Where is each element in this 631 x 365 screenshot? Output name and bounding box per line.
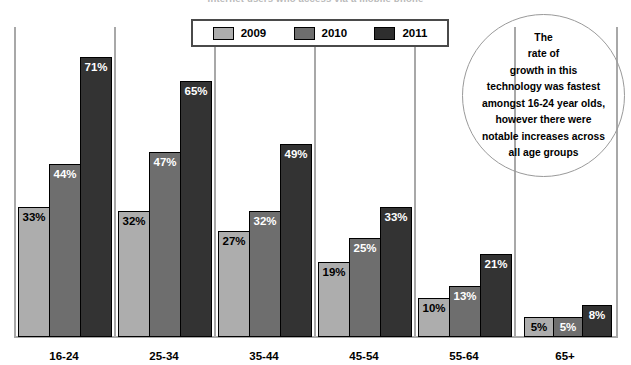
bar-2009[interactable]: 19% bbox=[318, 262, 350, 337]
bar-value-label: 32% bbox=[119, 215, 149, 227]
bar-value-label: 49% bbox=[281, 148, 311, 160]
category-label: 25-34 bbox=[114, 350, 214, 363]
bar-value-label: 5% bbox=[525, 321, 553, 333]
bar-value-label: 33% bbox=[381, 211, 411, 223]
legend-item-2009[interactable]: 2009 bbox=[213, 27, 267, 40]
bar-value-label: 25% bbox=[350, 242, 380, 254]
legend-label-2011: 2011 bbox=[402, 27, 427, 39]
bar-2011[interactable]: 33% bbox=[380, 207, 412, 337]
bar-chart: Internet users who access via a mobile p… bbox=[0, 0, 631, 365]
legend-swatch-2009-icon bbox=[213, 27, 234, 40]
legend-swatch-2010-icon bbox=[294, 27, 315, 40]
bar-value-label: 13% bbox=[450, 290, 480, 302]
group-separator bbox=[14, 27, 16, 338]
annotation-text: The rate of growth in this technology wa… bbox=[463, 30, 624, 162]
category-label: 55-64 bbox=[414, 350, 514, 363]
bar-group: 19% 25% 33% bbox=[318, 27, 414, 337]
bar-2009[interactable]: 5% bbox=[524, 317, 554, 337]
bar-2011[interactable]: 49% bbox=[280, 144, 312, 337]
legend-label-2009: 2009 bbox=[241, 27, 267, 39]
category-label: 65+ bbox=[514, 350, 616, 363]
bar-value-label: 10% bbox=[419, 302, 449, 314]
bar-value-label: 33% bbox=[19, 211, 49, 223]
bar-2009[interactable]: 27% bbox=[218, 231, 250, 337]
category-label: 45-54 bbox=[314, 350, 414, 363]
category-label: 35-44 bbox=[214, 350, 314, 363]
legend-swatch-2011-icon bbox=[374, 27, 395, 40]
legend-label-2010: 2010 bbox=[322, 27, 348, 39]
bar-2010[interactable]: 32% bbox=[249, 211, 281, 337]
legend-item-2011[interactable]: 2011 bbox=[374, 27, 427, 40]
bar-2011[interactable]: 8% bbox=[582, 305, 612, 337]
legend-item-2010[interactable]: 2010 bbox=[294, 27, 348, 40]
bar-2010[interactable]: 13% bbox=[449, 286, 481, 337]
bar-value-label: 47% bbox=[150, 156, 180, 168]
bar-value-label: 8% bbox=[583, 309, 611, 321]
group-separator bbox=[114, 27, 116, 338]
bar-2009[interactable]: 10% bbox=[418, 298, 450, 337]
group-separator bbox=[214, 27, 216, 338]
group-separator bbox=[414, 27, 416, 338]
bar-value-label: 21% bbox=[481, 258, 511, 270]
annotation-circle: The rate of growth in this technology wa… bbox=[462, 14, 625, 177]
category-label: 16-24 bbox=[14, 350, 114, 363]
chart-title: Internet users who access via a mobile p… bbox=[0, 0, 631, 2]
bar-2011[interactable]: 65% bbox=[180, 81, 212, 337]
bar-group: 32% 47% 65% bbox=[118, 27, 214, 337]
bar-2011[interactable]: 21% bbox=[480, 254, 512, 337]
group-separator bbox=[314, 27, 316, 338]
bar-2011[interactable]: 71% bbox=[80, 57, 112, 337]
bar-2009[interactable]: 33% bbox=[18, 207, 50, 337]
bar-group: 27% 32% 49% bbox=[218, 27, 314, 337]
bar-value-label: 71% bbox=[81, 61, 111, 73]
bar-2009[interactable]: 32% bbox=[118, 211, 150, 337]
bar-2010[interactable]: 5% bbox=[553, 317, 583, 337]
bar-2010[interactable]: 47% bbox=[149, 152, 181, 337]
bar-2010[interactable]: 44% bbox=[49, 164, 81, 337]
bar-value-label: 65% bbox=[181, 85, 211, 97]
bar-2010[interactable]: 25% bbox=[349, 238, 381, 337]
bar-group: 33% 44% 71% bbox=[18, 27, 114, 337]
bar-value-label: 27% bbox=[219, 235, 249, 247]
bar-value-label: 5% bbox=[554, 321, 582, 333]
chart-legend: 2009 2010 2011 bbox=[191, 19, 449, 47]
bar-value-label: 19% bbox=[319, 266, 349, 278]
bar-value-label: 44% bbox=[50, 168, 80, 180]
bar-value-label: 32% bbox=[250, 215, 280, 227]
